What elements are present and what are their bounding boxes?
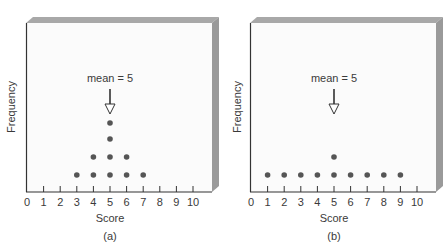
x-tick-label: 7 [140,196,146,208]
x-tick-label: 7 [364,196,370,208]
dot-plot-a: 012345678910ScoreFrequency(a)mean = 5 [0,0,224,245]
plot-area [250,23,436,192]
data-dot [107,154,113,160]
x-tick-label: 2 [281,196,287,208]
x-tick-label: 1 [41,196,47,208]
dot-plot-b: 012345678910ScoreFrequency(b)mean = 5 [224,0,447,245]
chart-panel-b: 012345678910ScoreFrequency(b)mean = 5 [224,0,447,245]
data-dot [107,120,113,126]
x-tick-label: 0 [24,196,30,208]
x-tick-label: 0 [248,196,254,208]
x-tick-label: 8 [381,196,387,208]
x-axis-label: Score [320,212,349,224]
panel-label: (a) [103,230,116,242]
x-tick-label: 9 [397,196,403,208]
data-dot [331,172,337,178]
x-axis-label: Score [96,212,125,224]
frame-side-bevel [212,17,219,192]
x-tick-label: 8 [157,196,163,208]
data-dot [91,172,97,178]
x-tick-label: 3 [74,196,80,208]
data-dot [298,172,304,178]
data-dot [74,172,80,178]
y-axis-label: Frequency [5,81,17,133]
data-dot [381,172,387,178]
data-dot [107,172,113,178]
data-dot [331,154,337,160]
x-tick-label: 2 [57,196,63,208]
frame-side-bevel [436,17,443,192]
data-dot [91,154,97,160]
x-tick-label: 10 [187,196,199,208]
data-dot [315,172,321,178]
frame-top-bevel [26,17,219,23]
y-axis-label: Frequency [231,81,243,133]
x-tick-label: 10 [411,196,423,208]
x-tick-label: 9 [173,196,179,208]
data-dot [140,172,146,178]
x-tick-label: 5 [107,196,113,208]
data-dot [398,172,404,178]
frame-top-bevel [250,17,443,23]
data-dot [124,154,130,160]
chart-panel-a: 012345678910ScoreFrequency(a)mean = 5 [0,0,224,245]
data-dot [107,136,113,142]
x-tick-label: 3 [298,196,304,208]
mean-annotation: mean = 5 [87,72,133,84]
plot-area [26,23,212,192]
data-dot [265,172,271,178]
x-tick-label: 1 [265,196,271,208]
x-tick-label: 4 [90,196,96,208]
x-tick-label: 6 [348,196,354,208]
x-tick-label: 6 [124,196,130,208]
data-dot [364,172,370,178]
x-tick-label: 4 [314,196,320,208]
panel-label: (b) [327,230,340,242]
mean-annotation: mean = 5 [311,72,357,84]
data-dot [281,172,287,178]
x-tick-label: 5 [331,196,337,208]
data-dot [124,172,130,178]
data-dot [348,172,354,178]
